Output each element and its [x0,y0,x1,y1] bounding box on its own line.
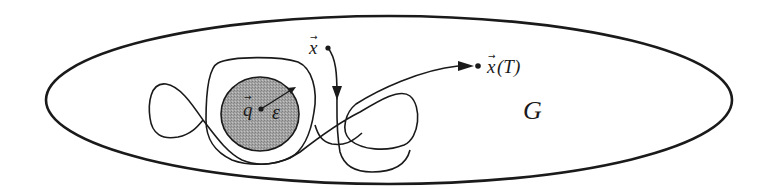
x-vector-arrow-icon: → [310,32,318,42]
trajectory-curve [149,66,458,164]
end-point-dot [475,63,481,69]
q-vector-arrow-icon: → [244,92,252,102]
x-end-label-arg: (T) [497,56,520,78]
q-label: q [243,99,253,120]
x-end-vector-arrow-icon: → [488,51,496,61]
label-x-end: x → (T) [486,51,520,78]
epsilon-label: ε [272,101,280,123]
domain-g-label: G [523,96,542,125]
start-path [328,48,410,172]
label-x-start: x → [308,32,318,58]
end-arrowhead-icon [458,61,474,71]
diagram-canvas: q → ε x → x → (T) G [0,0,771,189]
label-q: q → [243,92,253,120]
domain-g-boundary [46,16,732,184]
start-arrowhead-icon [332,86,342,100]
